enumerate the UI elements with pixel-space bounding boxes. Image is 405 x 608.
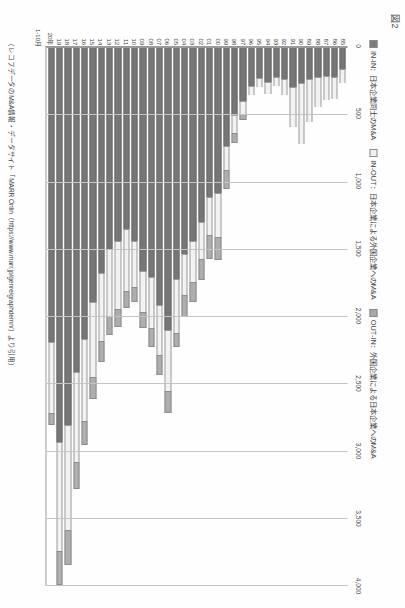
bar-segment-in-out [331, 77, 337, 99]
bar-segment-in-in [48, 47, 54, 342]
x-gridline [46, 518, 347, 519]
bar-segment-out-in [173, 333, 179, 347]
bar-segment-in-out [173, 279, 179, 333]
x-axis-tick-labels: 05001,0001,5002,0002,5003,0003,5004,000 [347, 46, 361, 586]
y-tick-label: 09 [139, 29, 145, 45]
x-tick-label: 2,000 [354, 308, 361, 325]
y-tick-label: 99 [222, 29, 228, 45]
bar-segment-out-in [181, 295, 187, 317]
bar-segment-in-in [73, 47, 79, 372]
bar-segment-in-in [114, 47, 120, 241]
bar-segment-in-out [214, 193, 220, 237]
legend-swatch-in-in-icon [370, 40, 378, 48]
bar-segment-out-in [64, 530, 70, 565]
y-tick-label: 03 [189, 29, 195, 45]
stacked-bar-chart: 05001,0001,5002,0002,5003,0003,5004,000 … [31, 46, 361, 586]
bar-segment-in-in [339, 47, 345, 69]
bar-segment-in-out [281, 79, 287, 95]
bar-segment-out-in [123, 291, 129, 308]
y-tick-label: 89 [306, 29, 312, 45]
bar-segment-in-out [64, 425, 70, 530]
bar-segment-in-out [89, 302, 95, 377]
y-tick-label: 92 [281, 29, 287, 45]
bar-segment-in-out [264, 82, 270, 94]
bar-segment-out-in [56, 551, 62, 585]
bar-segment-in-in [273, 47, 279, 77]
y-tick-label: 18 [63, 29, 69, 45]
x-gridline [46, 47, 347, 48]
bar-segment-in-in [98, 47, 104, 273]
legend-label-in-in: IN-IN：日本企業同士のM&A [368, 51, 379, 140]
bar-segment-in-out [164, 330, 170, 391]
bar-segment-out-in [114, 309, 120, 327]
bar-segment-in-in [156, 47, 162, 305]
x-tick-label: 4,000 [354, 578, 361, 595]
y-axis-category-labels: 8586878889909192939495969798990001020304… [45, 29, 347, 45]
bar-segment-in-in [248, 47, 254, 86]
bar-segment-in-in [64, 47, 70, 425]
bar-segment-in-out [289, 87, 295, 127]
bar-segment-out-in [73, 462, 79, 488]
bar-segment-in-out [156, 305, 162, 354]
x-gridline [46, 249, 347, 250]
y-tick-label: 04 [180, 29, 186, 45]
bar-segment-in-in [306, 47, 312, 79]
bar-segment-in-in [239, 47, 245, 101]
x-gridline [46, 316, 347, 317]
bar-segment-in-in [173, 47, 179, 279]
bar-segment-out-in [106, 316, 112, 336]
y-tick-label: 12 [114, 29, 120, 45]
y-tick-label: 91 [289, 29, 295, 45]
bar-segment-out-in [148, 328, 154, 347]
legend-label-in-out: IN-OUT：日本企業による外国企業へのM&A [368, 160, 379, 299]
y-tick-label: 00 [214, 29, 220, 45]
bar-segment-in-out [306, 79, 312, 121]
bar-segment-in-out [181, 254, 187, 296]
bar-segment-in-in [139, 47, 145, 271]
y-axis-last-period-note: 1-10月 [33, 29, 42, 45]
bar-segment-in-in [181, 47, 187, 254]
x-tick-label: 3,000 [354, 443, 361, 460]
bar-segment-in-out [223, 146, 229, 170]
bar-segment-in-in [131, 47, 137, 241]
y-tick-label: 93 [272, 29, 278, 45]
legend-swatch-out-in-icon [370, 309, 378, 317]
bar-segment-in-in [148, 47, 154, 277]
bar-segment-in-out [314, 77, 320, 107]
bar-segment-out-in [164, 391, 170, 413]
bar-segment-out-in [223, 170, 229, 189]
y-tick-label: 05 [172, 29, 178, 45]
bar-segment-in-in [289, 47, 295, 87]
y-tick-label: 14 [97, 29, 103, 45]
x-tick-label: 1,500 [354, 240, 361, 257]
legend-item-in-in: IN-IN：日本企業同士のM&A [368, 40, 379, 140]
bar-segment-in-out [189, 241, 195, 282]
y-tick-label: 88 [314, 29, 320, 45]
y-tick-label: 17 [72, 29, 78, 45]
bar-segment-out-in [139, 312, 145, 327]
bar-segment-out-in [131, 287, 137, 302]
y-tick-label: 85 [339, 29, 345, 45]
bar-segment-in-in [281, 47, 287, 79]
bar-segment-in-in [123, 47, 129, 229]
bar-segment-out-in [81, 421, 87, 444]
bar-segment-in-out [239, 101, 245, 114]
bar-segment-in-out [56, 442, 62, 551]
bar-segment-in-out [198, 222, 204, 259]
bar-segment-in-out [273, 77, 279, 86]
bar-segment-in-in [256, 47, 262, 78]
bar-segment-in-out [148, 277, 154, 328]
y-tick-label: 98 [231, 29, 237, 45]
legend-item-out-in: OUT-IN：外国企業による日本企業へのM&A [368, 309, 379, 459]
y-tick-label: 07 [155, 29, 161, 45]
plot-area [45, 46, 347, 586]
x-tick-label: 0 [354, 44, 361, 48]
bar-segment-out-in [48, 413, 54, 426]
y-tick-label: 96 [247, 29, 253, 45]
y-tick-label: 10 [130, 29, 136, 45]
y-tick-label: 94 [264, 29, 270, 45]
x-tick-label: 500 [354, 108, 361, 119]
legend-swatch-in-out-icon [370, 149, 378, 157]
bar-segment-in-in [323, 47, 329, 76]
bar-segment-in-in [206, 47, 212, 197]
